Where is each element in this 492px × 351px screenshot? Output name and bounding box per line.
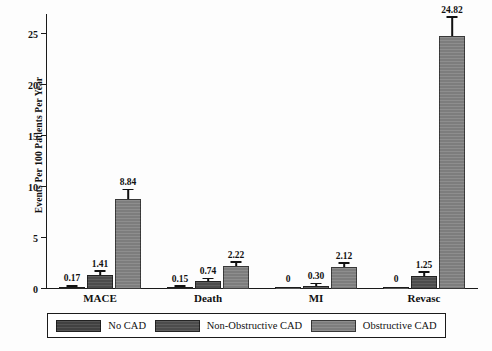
- error-bar-cap-top: [95, 270, 106, 272]
- bar-slot: 0.15: [167, 14, 193, 289]
- y-tick-label: 20: [28, 80, 38, 91]
- chart-figure: Events Per 100 Patients Per Year 0510152…: [0, 0, 492, 351]
- bar-slot: 1.41: [87, 14, 113, 289]
- y-tick-label: 5: [33, 233, 38, 244]
- bar[interactable]: [59, 287, 85, 289]
- bar[interactable]: [223, 266, 249, 289]
- x-axis-label-mace: MACE: [46, 292, 154, 304]
- bar-value-label: 1.25: [416, 260, 433, 270]
- bar-value-label: 0.74: [200, 266, 217, 276]
- error-bar-cap-top: [203, 278, 214, 280]
- bar-slot: 0.30: [303, 14, 329, 289]
- legend-label: Non-Obstructive CAD: [207, 320, 302, 331]
- bar-slot: 24.82: [439, 14, 465, 289]
- legend-label: Obstructive CAD: [363, 320, 437, 331]
- bar-value-label: 0.30: [308, 271, 325, 281]
- bar-value-label: 0.17: [64, 273, 81, 283]
- bar[interactable]: [115, 199, 141, 289]
- bar-slot: 0: [383, 14, 409, 289]
- error-bar-cap-top: [419, 271, 430, 273]
- y-tick-label: 10: [28, 182, 38, 193]
- bar-group-mace: 0.171.418.84: [46, 14, 154, 289]
- bar-slot: 2.12: [331, 14, 357, 289]
- bar-value-label: 2.22: [228, 250, 245, 260]
- bar-value-label: 2.12: [336, 251, 353, 261]
- bar-value-label: 1.41: [92, 259, 109, 269]
- plot-area: 0510152025 0.171.418.840.150.742.2200.30…: [46, 14, 478, 289]
- legend-swatch: [56, 320, 101, 332]
- error-bar-cap-top: [231, 261, 242, 263]
- bar-value-label: 0: [286, 274, 291, 284]
- x-axis-label-revasc: Revasc: [370, 292, 478, 304]
- legend-item-2[interactable]: Obstructive CAD: [311, 320, 437, 332]
- bar-slot: 0: [275, 14, 301, 289]
- x-axis-label-mi: MI: [262, 292, 370, 304]
- bar[interactable]: [411, 276, 437, 289]
- y-tick-label: 0: [33, 284, 38, 295]
- bar-value-label: 0: [394, 274, 399, 284]
- bar-slot: 0.74: [195, 14, 221, 289]
- error-bar-cap-top: [447, 16, 458, 18]
- error-bar-cap-top: [123, 189, 134, 191]
- bar[interactable]: [167, 287, 193, 289]
- bar-groups: 0.171.418.840.150.742.2200.302.1201.2524…: [46, 14, 478, 289]
- bar-group-death: 0.150.742.22: [154, 14, 262, 289]
- bar[interactable]: [87, 275, 113, 289]
- bar-group-mi: 00.302.12: [262, 14, 370, 289]
- bar[interactable]: [383, 287, 409, 289]
- bar-value-label: 0.15: [172, 274, 189, 284]
- legend-swatch: [155, 320, 200, 332]
- chart-legend: No CADNon-Obstructive CADObstructive CAD: [47, 313, 446, 338]
- x-axis-labels: MACEDeathMIRevasc: [46, 292, 478, 304]
- bar[interactable]: [195, 281, 221, 289]
- bar-slot: 0.17: [59, 14, 85, 289]
- legend-label: No CAD: [108, 320, 146, 331]
- y-tick-label: 15: [28, 131, 38, 142]
- x-axis-label-death: Death: [154, 292, 262, 304]
- bar-value-label: 8.84: [120, 177, 137, 187]
- legend-item-0[interactable]: No CAD: [56, 320, 146, 332]
- bar-slot: 1.25: [411, 14, 437, 289]
- bar[interactable]: [275, 287, 301, 289]
- error-bar-cap-top: [339, 262, 350, 264]
- bar-slot: 8.84: [115, 14, 141, 289]
- bar[interactable]: [303, 286, 329, 289]
- legend-swatch: [311, 320, 356, 332]
- legend-item-1[interactable]: Non-Obstructive CAD: [155, 320, 302, 332]
- bar-slot: 2.22: [223, 14, 249, 289]
- bar[interactable]: [439, 36, 465, 289]
- bar-value-label: 24.82: [441, 5, 462, 15]
- caption-fragment: [0, 345, 492, 351]
- y-tick-label: 25: [28, 29, 38, 40]
- error-bar-cap-top: [311, 283, 322, 285]
- bar-group-revasc: 01.2524.82: [370, 14, 478, 289]
- bar[interactable]: [331, 267, 357, 289]
